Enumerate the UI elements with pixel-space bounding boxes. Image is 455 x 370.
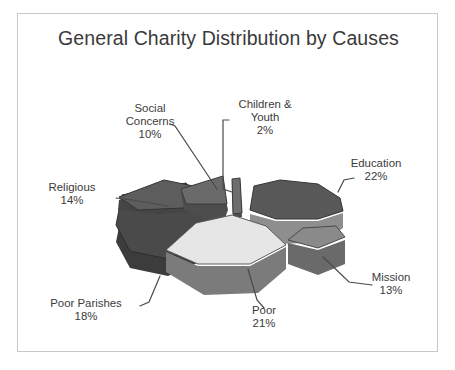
label-poor-parishes-name: Poor Parishes: [34, 297, 138, 310]
label-poor-pct: 21%: [236, 317, 292, 330]
label-education-name: Education: [338, 157, 414, 170]
leader-line-poor-parishes: [140, 276, 160, 306]
label-social-concerns-name2: Concerns: [114, 115, 186, 128]
label-religious-pct: 14%: [33, 194, 111, 207]
pie-slice-education-top: [250, 180, 343, 219]
label-children-youth-name2: Youth: [224, 111, 306, 124]
label-social-concerns-pct: 10%: [114, 128, 186, 141]
label-poor-parishes: Poor Parishes 18%: [34, 297, 138, 323]
pie-slice-children-youth-top: [232, 178, 242, 214]
label-poor-parishes-pct: 18%: [34, 310, 138, 323]
label-social-concerns-name1: Social: [114, 102, 186, 115]
label-mission-name: Mission: [358, 271, 424, 284]
label-poor-name: Poor: [236, 304, 292, 317]
label-religious-name: Religious: [33, 181, 111, 194]
label-education: Education 22%: [338, 157, 414, 183]
chart-frame: General Charity Distribution by Causes: [17, 13, 438, 352]
pie-slice-mission[interactable]: [288, 226, 345, 275]
label-poor: Poor 21%: [236, 304, 292, 330]
label-children-youth-name1: Children &: [224, 98, 306, 111]
label-education-pct: 22%: [338, 170, 414, 183]
label-mission: Mission 13%: [358, 271, 424, 297]
label-mission-pct: 13%: [358, 284, 424, 297]
label-children-youth-pct: 2%: [224, 124, 306, 137]
pie-slice-social-concerns-top: [181, 176, 227, 204]
label-children-youth: Children & Youth 2%: [224, 98, 306, 138]
label-religious: Religious 14%: [33, 181, 111, 207]
label-social-concerns: Social Concerns 10%: [114, 102, 186, 142]
pie-slice-children-youth[interactable]: [232, 178, 242, 218]
